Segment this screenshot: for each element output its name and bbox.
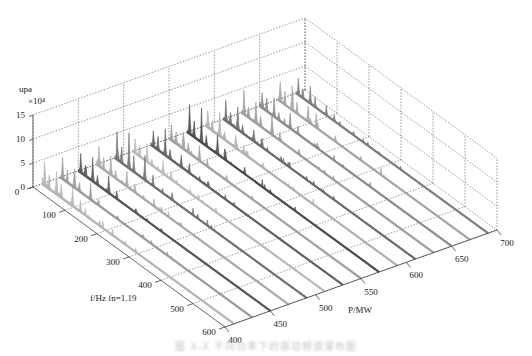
p-tick <box>225 327 229 332</box>
f-axis-label: f/Hz fn=1.19 <box>90 293 137 303</box>
f-tick <box>123 257 129 259</box>
grid-line <box>33 42 305 139</box>
f-tick <box>219 327 225 329</box>
spectrum-trace <box>260 93 452 247</box>
spectrum-traces <box>42 78 488 323</box>
f-tick <box>187 304 193 306</box>
f-tick-label: 300 <box>106 257 120 267</box>
z-exponent-label: ×10⁴ <box>28 96 45 106</box>
p-tick-label: 450 <box>274 319 288 329</box>
z-tick <box>29 163 33 165</box>
z-tick-label: 10 <box>16 134 26 144</box>
spectrum-trace <box>151 129 343 285</box>
p-tick <box>452 246 456 251</box>
figure-caption: 图 X-X 不同功率下的振动频谱瀑布图 <box>0 338 532 353</box>
z-tick <box>29 115 33 117</box>
p-tick <box>270 311 274 316</box>
spectrum-trace <box>169 124 361 278</box>
z-axis-label: upa <box>19 84 32 94</box>
spectrum-trace <box>296 78 488 233</box>
grid-line <box>33 18 305 115</box>
p-tick <box>406 262 410 267</box>
p-tick <box>497 230 501 235</box>
f-tick-label: 0 <box>15 187 20 197</box>
f-tick-label: 100 <box>42 210 56 220</box>
f-tick-label: 200 <box>74 234 88 244</box>
f-tick <box>91 234 97 236</box>
chart-grid <box>33 18 497 327</box>
spectrum-trace <box>115 132 307 298</box>
z-tick <box>29 139 33 141</box>
p-tick-label: 500 <box>319 303 333 313</box>
spectrum-trace <box>187 105 379 273</box>
p-tick-label: 700 <box>500 238 514 248</box>
spectrum-trace <box>205 111 397 266</box>
p-tick-label: 650 <box>455 254 469 264</box>
p-tick-label: 600 <box>410 270 424 280</box>
f-tick-label: 400 <box>138 280 152 290</box>
f-tick <box>59 210 65 212</box>
waterfall-chart: 0510150100200300400500600400450500550600… <box>0 0 532 356</box>
f-tick <box>155 280 161 282</box>
z-tick-label: 5 <box>21 158 26 168</box>
f-tick-label: 500 <box>170 304 184 314</box>
z-tick-label: 15 <box>16 110 26 120</box>
p-tick <box>316 295 320 300</box>
f-tick-label: 600 <box>202 327 216 337</box>
f-tick <box>27 187 33 189</box>
z-tick-label: 0 <box>21 182 26 192</box>
p-axis-label: P/MW <box>348 305 373 315</box>
p-tick <box>361 279 365 284</box>
p-tick-label: 550 <box>364 287 378 297</box>
